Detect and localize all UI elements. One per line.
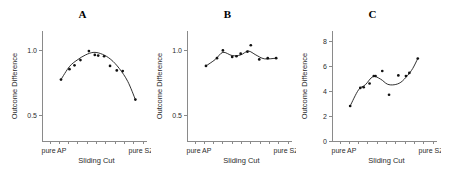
- y-tick-label: 2: [323, 113, 327, 120]
- y-axis-title: Outcome Difference: [155, 53, 164, 120]
- data-point: [97, 54, 100, 57]
- data-point: [103, 55, 106, 58]
- fit-curve: [61, 52, 135, 99]
- data-point: [115, 69, 118, 72]
- y-axis-title: Outcome Difference: [10, 53, 19, 120]
- panel-a-plot: 0.51.0pure APpure SZSliding CutOutcome D…: [0, 0, 151, 180]
- panel-b-plot: 0.51.0pure APpure SZSliding CutOutcome D…: [145, 0, 296, 180]
- y-tick-label: 0.5: [172, 112, 182, 119]
- y-tick-label: 4: [323, 88, 327, 95]
- data-point: [266, 57, 269, 60]
- y-tick-label: 1.0: [172, 47, 182, 54]
- x-tick-label-right: pure SZ: [419, 147, 441, 155]
- data-point: [416, 57, 419, 60]
- x-tick-label-left: pure AP: [187, 147, 212, 155]
- data-point: [349, 105, 352, 108]
- data-point: [222, 49, 225, 52]
- data-point: [405, 75, 408, 78]
- y-tick-label: 8: [323, 38, 327, 45]
- figure-panel-group: A 0.51.0pure APpure SZSliding CutOutcome…: [0, 0, 453, 180]
- data-point: [397, 74, 400, 77]
- x-axis-title: Sliding Cut: [223, 156, 260, 165]
- data-point: [121, 70, 124, 73]
- data-point: [231, 56, 234, 59]
- data-point: [216, 57, 219, 60]
- y-tick-label: 0: [323, 138, 327, 145]
- data-point: [362, 86, 365, 89]
- chart-panel-b: B 0.51.0pure APpure SZSliding CutOutcome…: [145, 0, 296, 180]
- data-point: [359, 87, 362, 90]
- y-axis-title: Outcome Difference: [300, 53, 309, 120]
- fit-curve: [350, 59, 418, 107]
- data-point: [239, 52, 242, 55]
- data-point: [134, 98, 137, 101]
- data-point: [88, 50, 91, 53]
- data-point: [73, 64, 76, 67]
- x-axis-title: Sliding Cut: [368, 156, 405, 165]
- data-point: [235, 55, 238, 58]
- data-point: [68, 68, 71, 71]
- data-point: [408, 72, 411, 75]
- y-tick-label: 6: [323, 63, 327, 70]
- x-tick-label-left: pure AP: [42, 147, 67, 155]
- chart-panel-c: C 02468pure APpure SZSliding CutOutcome …: [290, 0, 441, 180]
- data-point: [246, 50, 249, 53]
- data-point: [79, 59, 82, 62]
- data-point: [60, 78, 63, 81]
- data-point: [109, 65, 112, 68]
- chart-panel-a: A 0.51.0pure APpure SZSliding CutOutcome…: [0, 0, 151, 180]
- data-point: [381, 70, 384, 73]
- data-point: [374, 75, 377, 78]
- y-tick-label: 0.5: [27, 112, 37, 119]
- data-point: [249, 44, 252, 47]
- data-point: [388, 93, 391, 96]
- data-point: [258, 58, 261, 61]
- data-point: [368, 82, 371, 85]
- y-tick-label: 1.0: [27, 47, 37, 54]
- data-point: [205, 65, 208, 68]
- data-point: [93, 54, 96, 57]
- data-point: [275, 57, 278, 60]
- x-axis-title: Sliding Cut: [78, 156, 115, 165]
- panel-c-plot: 02468pure APpure SZSliding CutOutcome Di…: [290, 0, 441, 180]
- x-tick-label-left: pure AP: [332, 147, 357, 155]
